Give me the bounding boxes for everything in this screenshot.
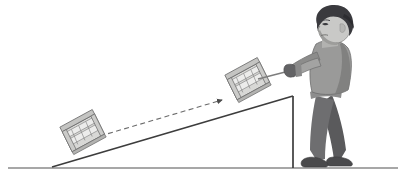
shoe-back: [326, 157, 352, 166]
scene-svg: [0, 0, 406, 184]
person-pulling: [284, 5, 354, 167]
glove-hand: [284, 64, 297, 77]
illustration-canvas: [0, 0, 406, 184]
ear: [340, 24, 345, 33]
crate-lower: [58, 108, 109, 156]
crate-upper: [223, 56, 274, 104]
glove-cuff: [295, 63, 302, 77]
displacement-arrow: [100, 100, 222, 136]
